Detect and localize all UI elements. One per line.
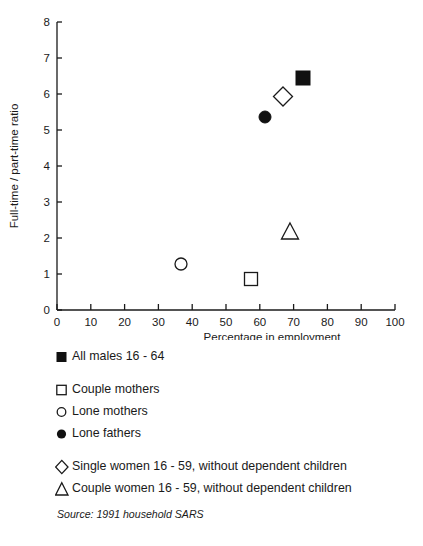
x-tick-label-90: 90 bbox=[355, 316, 368, 328]
chart-legend: All males 16 - 64 Couple mothers Lone mo… bbox=[55, 346, 415, 500]
legend-item-couple-women: Couple women 16 - 59, without dependent … bbox=[55, 478, 415, 498]
filled-circle-icon bbox=[55, 425, 72, 442]
x-tick-label-60: 60 bbox=[253, 316, 266, 328]
legend-label-all-males: All males 16 - 64 bbox=[72, 348, 164, 365]
y-tick-label-7: 7 bbox=[44, 52, 50, 64]
legend-label-couple-women: Couple women 16 - 59, without dependent … bbox=[72, 480, 352, 497]
y-tick-label-4: 4 bbox=[44, 160, 51, 172]
scatter-chart-figure: 0 1 2 3 4 5 6 7 8 0 10 20 30 40 50 60 bbox=[0, 0, 423, 340]
open-circle-icon bbox=[55, 403, 72, 420]
x-tick-label-30: 30 bbox=[152, 316, 165, 328]
legend-label-couple-mothers: Couple mothers bbox=[72, 381, 159, 398]
y-tick-label-3: 3 bbox=[44, 196, 50, 208]
legend-label-lone-mothers: Lone mothers bbox=[72, 403, 148, 420]
x-tick-label-50: 50 bbox=[220, 316, 233, 328]
data-point-couple-mothers bbox=[245, 273, 258, 286]
legend-item-single-women: Single women 16 - 59, without dependent … bbox=[55, 456, 415, 476]
legend-label-lone-fathers: Lone fathers bbox=[72, 425, 141, 442]
x-tick-label-70: 70 bbox=[287, 316, 300, 328]
legend-item-lone-mothers: Lone mothers bbox=[55, 401, 415, 421]
source-note: Source: 1991 household SARS bbox=[57, 508, 204, 520]
legend-item-all-males: All males 16 - 64 bbox=[55, 346, 415, 366]
y-tick-label-6: 6 bbox=[44, 88, 50, 100]
x-axis-ticks bbox=[57, 304, 395, 310]
y-tick-label-1: 1 bbox=[44, 268, 50, 280]
x-tick-label-40: 40 bbox=[186, 316, 199, 328]
data-point-lone-fathers bbox=[259, 111, 271, 123]
data-point-couple-women bbox=[282, 223, 299, 239]
data-point-single-women bbox=[274, 87, 293, 106]
open-square-icon bbox=[55, 381, 72, 398]
x-tick-label-20: 20 bbox=[118, 316, 131, 328]
y-tick-label-0: 0 bbox=[44, 304, 50, 316]
y-tick-label-8: 8 bbox=[44, 16, 50, 28]
legend-item-couple-mothers: Couple mothers bbox=[55, 379, 415, 399]
y-tick-label-5: 5 bbox=[44, 124, 50, 136]
plot-canvas: 0 1 2 3 4 5 6 7 8 0 10 20 30 40 50 60 bbox=[0, 0, 423, 340]
y-tick-label-2: 2 bbox=[44, 232, 50, 244]
x-tick-label-10: 10 bbox=[84, 316, 97, 328]
data-point-all-males bbox=[296, 71, 310, 85]
y-axis-title: Full-time / part-time ratio bbox=[8, 104, 20, 229]
data-point-lone-mothers bbox=[175, 258, 187, 270]
x-axis-title: Percentage in employment bbox=[204, 331, 342, 340]
y-axis-ticks bbox=[57, 22, 62, 310]
filled-square-icon bbox=[55, 348, 72, 365]
x-tick-label-0: 0 bbox=[54, 316, 60, 328]
legend-item-lone-fathers: Lone fathers bbox=[55, 423, 415, 443]
open-diamond-icon bbox=[55, 458, 72, 475]
x-tick-label-100: 100 bbox=[385, 316, 404, 328]
x-tick-label-80: 80 bbox=[321, 316, 334, 328]
open-triangle-icon bbox=[55, 480, 72, 497]
legend-label-single-women: Single women 16 - 59, without dependent … bbox=[72, 458, 347, 475]
